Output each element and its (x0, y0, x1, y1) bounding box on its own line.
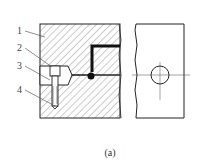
pin-head (50, 66, 60, 76)
label-3: 3 (17, 60, 22, 71)
figure-caption: (a) (104, 147, 115, 159)
side-view (132, 24, 190, 118)
label-2: 2 (17, 42, 22, 53)
section-view (40, 24, 121, 118)
label-1: 1 (17, 25, 22, 36)
channel-end (88, 73, 95, 80)
label-4: 4 (17, 84, 22, 95)
diagram-canvas: 1 2 3 4 (a) (0, 0, 197, 168)
